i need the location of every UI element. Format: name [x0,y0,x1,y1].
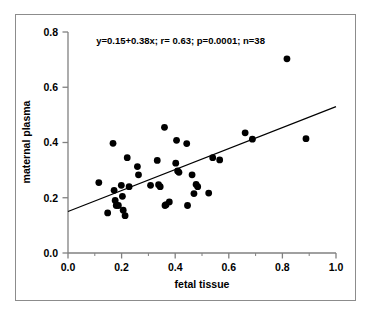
x-tick-label: 0.6 [221,261,236,273]
x-tick-label: 0.4 [168,261,183,273]
data-point [124,154,131,161]
data-point [147,182,154,189]
x-axis-tick-labels: 0.00.20.40.60.81.0 [61,261,344,273]
data-point [303,135,310,142]
data-point [161,124,168,131]
data-point [209,154,216,161]
data-point [173,137,180,144]
statistics-annotation: y=0.15+0.38x; r= 0.63; p=0.0001; n=38 [96,35,265,46]
scatter-plot: 0.00.20.40.60.8 0.00.20.40.60.81.0 fetal… [0,0,372,318]
figure-container: 0.00.20.40.60.8 0.00.20.40.60.81.0 fetal… [0,0,372,318]
data-point [166,198,173,205]
data-point [122,212,129,219]
data-point-group [95,55,309,219]
data-point [135,171,142,178]
data-point [172,160,179,167]
x-tick-label: 0.8 [275,261,290,273]
data-point [126,183,133,190]
y-tick-label: 0.6 [43,81,58,93]
x-tick-label: 0.2 [114,261,129,273]
data-point [191,190,198,197]
data-point [249,136,256,143]
data-point [134,163,141,170]
data-point [118,182,125,189]
data-point [284,55,291,62]
data-point [104,210,111,217]
x-tick-label: 1.0 [329,261,344,273]
y-axis-ticks [63,32,69,253]
data-point [242,129,249,136]
y-axis-tick-labels: 0.00.20.40.60.8 [43,26,58,259]
axes-group [68,32,336,253]
x-axis-ticks [68,253,336,259]
x-axis-title: fetal tissue [175,278,230,290]
data-point [154,157,161,164]
y-tick-label: 0.4 [43,136,58,148]
data-point [189,171,196,178]
data-point [205,190,212,197]
data-point [194,183,201,190]
data-point [95,179,102,186]
y-tick-label: 0.8 [43,26,58,38]
y-axis-title: maternal plasma [20,100,32,183]
data-point [110,140,117,147]
y-tick-label: 0.0 [43,247,58,259]
data-point [111,187,118,194]
y-tick-label: 0.2 [43,192,58,204]
x-tick-label: 0.0 [61,261,76,273]
data-point [184,202,191,209]
regression-line [68,107,336,212]
data-point [157,183,164,190]
data-point [176,169,183,176]
data-point [183,140,190,147]
data-point [119,193,126,200]
data-point [216,157,223,164]
